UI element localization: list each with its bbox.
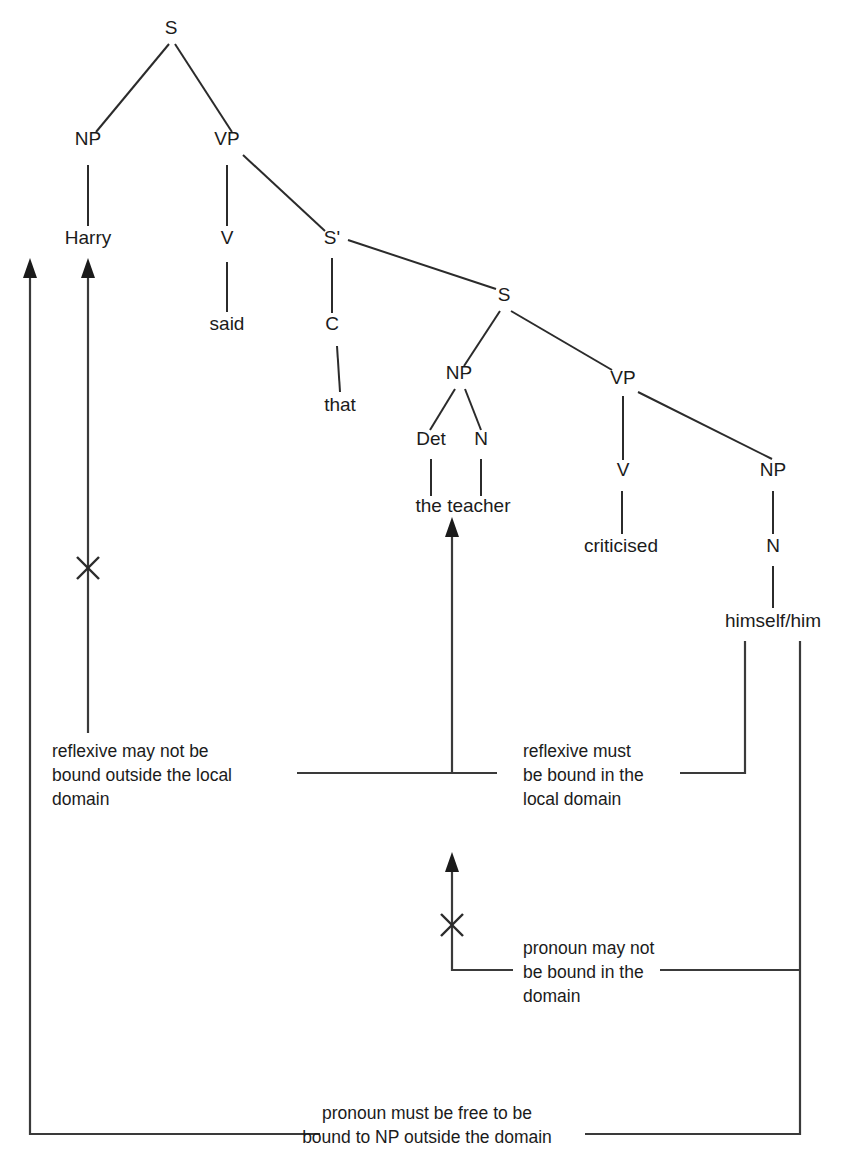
syntax-tree-canvas: S NP VP Harry V S' said C S that NP VP D…: [0, 0, 853, 1176]
branch-npemb-n: [465, 389, 481, 430]
node-s-embedded: S: [498, 284, 511, 305]
arrow-head-icon-reflexive-outside: [81, 258, 95, 278]
node-c: C: [325, 313, 339, 334]
annotation-pronoun-free-line-2: bound to NP outside the domain: [302, 1127, 552, 1147]
annotation-reflexive-local-line-3: local domain: [523, 789, 621, 809]
binding-arrow-reflexive-outside: [77, 258, 99, 733]
leaf-the-teacher: the teacher: [415, 495, 511, 516]
arrow-head-icon-pronoun-not-bound: [445, 852, 459, 872]
binding-theory-diagram: S NP VP Harry V S' said C S that NP VP D…: [0, 0, 853, 1176]
annotation-pronoun-not-bound-line-1: pronoun may not: [523, 938, 654, 958]
branch-vpemb-npobj: [638, 392, 772, 459]
branch-sbar-s: [348, 240, 496, 289]
binding-arrow-pronoun-free: [23, 258, 320, 1134]
annotation-reflexive-outside-line-1: reflexive may not be: [52, 741, 209, 761]
annotation-pronoun-free: pronoun must be free to be bound to NP o…: [302, 1103, 552, 1147]
leaf-himself-him: himself/him: [725, 610, 821, 631]
annotation-pronoun-free-line-1: pronoun must be free to be: [322, 1103, 532, 1123]
binding-arrow-reflexive-local: [297, 517, 745, 773]
binding-arrow-himself-to-bottom: [585, 641, 800, 1134]
node-v-embedded: V: [617, 459, 630, 480]
node-s-root: S: [165, 17, 178, 38]
annotation-reflexive-local-line-2: be bound in the: [523, 765, 644, 785]
arrow-head-icon-reflexive-local: [445, 517, 459, 537]
leaf-that: that: [324, 394, 356, 415]
node-np-matrix: NP: [75, 128, 101, 149]
binding-path-pronoun-free: [30, 272, 320, 1134]
leaf-harry: Harry: [65, 227, 112, 248]
arrow-head-icon-pronoun-free: [23, 258, 37, 278]
node-det: Det: [416, 428, 446, 449]
leaf-said: said: [210, 313, 245, 334]
node-n-object: N: [766, 535, 780, 556]
binding-path-himself-bottom: [585, 641, 800, 1134]
node-v-matrix: V: [221, 227, 234, 248]
annotation-reflexive-outside-line-3: domain: [52, 789, 109, 809]
node-np-embedded: NP: [446, 362, 472, 383]
annotation-reflexive-outside: reflexive may not be bound outside the l…: [52, 741, 232, 809]
annotation-pronoun-not-bound-line-3: domain: [523, 986, 580, 1006]
node-sbar: S': [324, 227, 340, 248]
annotation-reflexive-local-line-1: reflexive must: [523, 741, 631, 761]
node-np-object: NP: [760, 459, 786, 480]
branch-semb-np: [464, 311, 500, 366]
branch-npemb-det: [430, 389, 455, 430]
leaf-criticised: criticised: [584, 535, 658, 556]
annotation-reflexive-local: reflexive must be bound in the local dom…: [523, 741, 644, 809]
tree-branches: [88, 44, 773, 608]
tree-node-labels: S NP VP Harry V S' said C S that NP VP D…: [65, 17, 821, 631]
node-vp-embedded: VP: [610, 367, 635, 388]
annotation-pronoun-not-bound: pronoun may not be bound in the domain: [523, 938, 654, 1006]
branch-vp-sbar: [243, 155, 325, 231]
annotation-pronoun-not-bound-line-2: be bound in the: [523, 962, 644, 982]
branch-semb-vp: [511, 311, 612, 370]
binding-path-himself-to-local-domain: [680, 641, 745, 773]
branch-s-np: [96, 44, 169, 132]
node-vp-matrix: VP: [214, 128, 239, 149]
branch-s-vp: [175, 44, 232, 132]
stem-c-that: [337, 346, 340, 392]
node-n-teacher: N: [474, 428, 488, 449]
annotation-reflexive-outside-line-2: bound outside the local: [52, 765, 232, 785]
